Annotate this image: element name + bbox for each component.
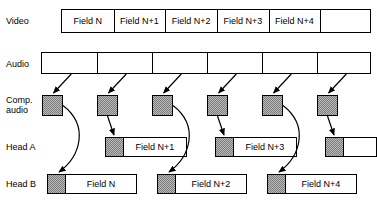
video-segment-label: Field N+1 — [114, 16, 166, 26]
head-a-block: Field N+1 — [105, 137, 187, 157]
head-b-block-label: Field N — [66, 179, 136, 189]
comp-audio-packet — [152, 95, 173, 116]
head-b-block: Field N+4 — [267, 174, 357, 194]
comp-audio-packet — [317, 95, 338, 116]
head-a-block-packet — [216, 138, 234, 156]
head-b-block-packet — [158, 175, 176, 193]
head-b-block-packet — [268, 175, 286, 193]
row-label-audio: Audio — [6, 59, 29, 69]
audio-to-packet-arrow — [274, 74, 292, 93]
video-segment-divider — [320, 10, 321, 32]
head-b-block: Field N+2 — [157, 174, 247, 194]
head-a-block-body — [344, 138, 376, 156]
audio-track — [41, 52, 371, 74]
head-b-block-body: Field N+2 — [176, 175, 246, 193]
head-a-block — [325, 137, 377, 157]
packet-to-head-a-arrow — [218, 116, 225, 135]
head-a-block-packet — [326, 138, 344, 156]
head-b-block-label: Field N+2 — [176, 179, 246, 189]
video-track: Field NField N+1Field N+2Field N+3Field … — [61, 9, 371, 33]
packet-to-head-a-arrow — [108, 116, 115, 135]
row-label-head-b: Head B — [6, 179, 36, 189]
head-b-block-packet — [48, 175, 66, 193]
comp-audio-packet — [42, 95, 63, 116]
head-a-block-packet — [106, 138, 124, 156]
audio-to-packet-arrow — [219, 74, 237, 93]
head-b-block-label: Field N+4 — [286, 179, 356, 189]
comp-audio-packet — [262, 95, 283, 116]
audio-to-packet-arrow — [164, 74, 182, 93]
audio-to-packet-arrow — [329, 74, 347, 93]
audio-to-packet-arrows — [54, 74, 347, 93]
audio-segment-divider — [97, 53, 98, 73]
video-segment-label: Field N+3 — [217, 16, 269, 26]
head-b-block-body: Field N — [66, 175, 136, 193]
video-segment-label: Field N+4 — [269, 16, 321, 26]
audio-segment-divider — [317, 53, 318, 73]
video-segment-label: Field N+2 — [165, 16, 217, 26]
head-a-block: Field N+3 — [215, 137, 297, 157]
head-a-block-body: Field N+1 — [124, 138, 186, 156]
comp-audio-packet — [207, 95, 228, 116]
packet-to-head-a-arrow — [328, 116, 335, 135]
audio-to-packet-arrow — [54, 74, 72, 93]
video-segment-label: Field N — [62, 16, 114, 26]
row-label-comp-audio: Comp. audio — [6, 95, 33, 115]
audio-segment-divider — [152, 53, 153, 73]
head-a-block-body: Field N+3 — [234, 138, 296, 156]
timing-diagram: Video Field NField N+1Field N+2Field N+3… — [0, 0, 377, 205]
head-a-block-label: Field N+3 — [234, 142, 296, 152]
row-label-head-a: Head A — [6, 142, 36, 152]
audio-to-packet-arrow — [109, 74, 127, 93]
head-b-block-body: Field N+4 — [286, 175, 356, 193]
comp-audio-packet — [97, 95, 118, 116]
audio-segment-divider — [262, 53, 263, 73]
audio-segment-divider — [207, 53, 208, 73]
head-a-block-label: Field N+1 — [124, 142, 186, 152]
row-label-video: Video — [6, 16, 29, 26]
head-b-block: Field N — [47, 174, 137, 194]
